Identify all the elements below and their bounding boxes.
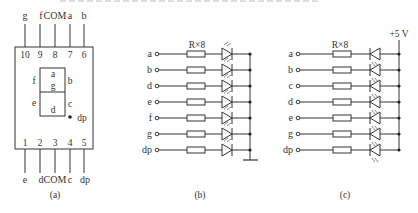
caption-a: (a) <box>50 190 61 201</box>
junction-dot <box>397 52 400 55</box>
led-diode-icon <box>222 144 232 156</box>
input-terminal <box>296 52 300 56</box>
segment-label-d: d <box>51 105 56 115</box>
input-label-b-6: g <box>147 128 152 139</box>
pin-number-bottom-5: 5 <box>82 138 87 148</box>
input-label-c-7: dp <box>283 144 293 155</box>
input-label-b-5: f <box>149 112 153 123</box>
input-label-b-1: a <box>148 48 153 59</box>
segment-label-dp: dp <box>77 113 87 123</box>
pin-number-bottom-3: 3 <box>53 138 58 148</box>
input-label-c-1: a <box>289 48 294 59</box>
panel-a-pinout <box>15 24 93 173</box>
junction-dot <box>248 52 251 55</box>
seven-segment-figure: g f COM a b 10 9 8 7 6 a g f b e c d dp … <box>0 0 418 213</box>
resistor-icon <box>333 131 351 137</box>
pin-label-top-1: g <box>23 10 28 21</box>
resistor-icon <box>187 51 205 57</box>
decimal-point-dot <box>68 115 72 119</box>
resistor-icon <box>333 99 351 105</box>
input-label-c-2: b <box>288 64 293 75</box>
input-label-b-3: d <box>147 80 152 91</box>
display-package-outline <box>15 47 93 149</box>
pin-label-bottom-1: e <box>23 174 28 185</box>
segment-label-b: b <box>68 76 73 86</box>
pin-label-top-4: a <box>68 10 73 21</box>
panel-b-common-cathode: R×8 a b d e f g dp (b) <box>142 40 258 201</box>
junction-dot <box>248 100 251 103</box>
pin-number-bottom-4: 4 <box>68 138 73 148</box>
resistor-icon <box>187 83 205 89</box>
input-label-b-2: b <box>147 64 152 75</box>
resistor-icon <box>187 99 205 105</box>
input-terminal <box>155 100 159 104</box>
segment-label-f: f <box>32 76 36 86</box>
resistor-icon <box>333 147 351 153</box>
input-terminal <box>155 84 159 88</box>
resistor-icon <box>187 147 205 153</box>
resistor-icon <box>333 115 351 121</box>
segment-label-a: a <box>51 69 56 79</box>
pin-label-bottom-3: COM <box>44 174 67 185</box>
resistor-icon <box>187 115 205 121</box>
input-label-b-7: dp <box>142 144 152 155</box>
resistor-icon <box>333 51 351 57</box>
caption-b: (b) <box>194 190 205 201</box>
pin-label-bottom-5: dp <box>80 174 90 185</box>
resistor-icon <box>187 67 205 73</box>
input-terminal <box>296 132 300 136</box>
junction-dot <box>248 84 251 87</box>
led-diode-icon <box>222 112 232 124</box>
input-label-b-4: e <box>148 96 153 107</box>
pin-number-top-5: 6 <box>82 50 87 60</box>
junction-dot <box>248 68 251 71</box>
pin-label-top-3: COM <box>44 10 67 21</box>
input-label-c-3: c <box>289 80 294 91</box>
pin-label-bottom-4: c <box>68 174 73 185</box>
junction-dot <box>248 132 251 135</box>
junction-dot <box>397 132 400 135</box>
resistor-icon <box>333 83 351 89</box>
led-diode-icon <box>370 48 380 60</box>
input-label-c-5: e <box>289 112 294 123</box>
led-diode-icon <box>222 48 232 60</box>
input-terminal <box>296 68 300 72</box>
pin-label-top-5: b <box>82 10 87 21</box>
input-terminal <box>155 68 159 72</box>
led-diode-icon <box>222 64 232 76</box>
input-terminal <box>296 100 300 104</box>
led-diode-icon <box>222 96 232 108</box>
input-label-c-6: g <box>288 128 293 139</box>
panel-c-common-anode: R×8 +5 V a b c d e g dp (c) <box>283 29 409 201</box>
input-terminal <box>296 116 300 120</box>
input-terminal <box>155 132 159 136</box>
junction-dot <box>248 116 251 119</box>
junction-dot <box>397 100 400 103</box>
input-terminal <box>155 116 159 120</box>
input-terminal <box>296 148 300 152</box>
input-terminal <box>296 84 300 88</box>
resistor-array-label: R×8 <box>189 40 206 50</box>
pin-number-top-1: 10 <box>20 50 30 60</box>
resistor-icon <box>187 131 205 137</box>
pin-number-top-2: 9 <box>38 50 43 60</box>
junction-dot <box>397 84 400 87</box>
input-label-c-4: d <box>288 96 293 107</box>
pin-number-top-3: 8 <box>53 50 58 60</box>
segment-label-e: e <box>32 98 36 108</box>
resistor-array-label-c: R×8 <box>332 40 349 50</box>
junction-dot <box>397 116 400 119</box>
pin-number-bottom-1: 1 <box>23 138 28 148</box>
resistor-icon <box>333 67 351 73</box>
segment-label-c: c <box>68 99 72 109</box>
junction-dot <box>248 148 251 151</box>
junction-dot <box>397 68 400 71</box>
led-diode-icon <box>222 128 232 140</box>
pin-number-top-4: 7 <box>68 50 73 60</box>
caption-c: (c) <box>340 190 351 201</box>
led-diode-icon <box>222 80 232 92</box>
junction-dot <box>397 148 400 151</box>
pin-number-bottom-2: 2 <box>38 138 43 148</box>
input-terminal <box>155 148 159 152</box>
segment-label-g: g <box>51 81 56 91</box>
